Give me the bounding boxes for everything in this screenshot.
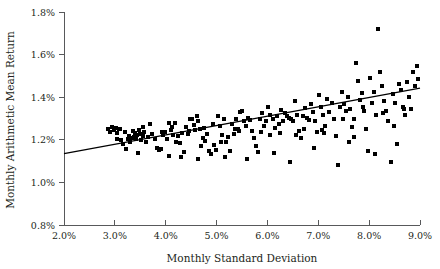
- data-point: [115, 137, 119, 141]
- data-point: [212, 143, 216, 147]
- data-point: [350, 125, 354, 129]
- data-point: [336, 163, 340, 167]
- data-point: [179, 155, 183, 159]
- data-point: [332, 117, 336, 121]
- data-point: [381, 111, 385, 115]
- data-point: [234, 117, 238, 121]
- data-point: [313, 119, 317, 123]
- data-point: [192, 123, 196, 127]
- data-point: [176, 134, 180, 138]
- data-point: [415, 64, 419, 68]
- data-point: [141, 134, 145, 138]
- data-point: [295, 113, 299, 117]
- tick-marks: [59, 12, 420, 225]
- data-point: [173, 121, 177, 125]
- data-point: [174, 140, 178, 144]
- data-point: [281, 119, 285, 123]
- data-point: [373, 152, 377, 156]
- data-point: [368, 76, 372, 80]
- data-point: [370, 101, 374, 105]
- y-tick-label: 1.6%: [31, 49, 55, 60]
- data-point: [216, 114, 220, 118]
- data-point: [340, 90, 344, 94]
- data-point: [159, 147, 163, 151]
- data-point: [297, 129, 301, 133]
- data-point: [325, 97, 329, 101]
- x-axis-title: Monthly Standard Deviation: [167, 252, 318, 264]
- data-point: [254, 144, 258, 148]
- data-point: [209, 152, 213, 156]
- data-point: [135, 133, 139, 137]
- data-point: [395, 142, 399, 146]
- data-point: [214, 148, 218, 152]
- data-point: [294, 133, 298, 137]
- data-point: [277, 122, 281, 126]
- data-point: [346, 95, 350, 99]
- data-point: [403, 113, 407, 117]
- data-point: [409, 107, 413, 111]
- scatter-chart: 2.0%3.0%4.0%5.0%6.0%7.0%8.0%9.0% 0.8%1.0…: [0, 0, 440, 269]
- data-point: [397, 82, 401, 86]
- data-point: [196, 119, 200, 123]
- data-point: [190, 117, 194, 121]
- data-point: [196, 157, 200, 161]
- data-point: [374, 113, 378, 117]
- data-points: [106, 27, 421, 167]
- data-point: [382, 99, 386, 103]
- data-point: [240, 109, 244, 113]
- data-point: [137, 128, 141, 132]
- data-point: [264, 119, 268, 123]
- data-point: [205, 132, 209, 136]
- data-point: [315, 130, 319, 134]
- data-point: [361, 105, 365, 109]
- data-point: [220, 133, 224, 137]
- y-tick-label: 1.0%: [31, 177, 55, 188]
- data-point: [299, 136, 303, 140]
- data-point: [165, 137, 169, 141]
- data-point: [237, 129, 241, 133]
- data-point: [117, 127, 121, 131]
- data-point: [250, 129, 254, 133]
- data-point: [322, 131, 326, 135]
- data-point: [148, 122, 152, 126]
- data-point: [245, 157, 249, 161]
- data-point: [411, 70, 415, 74]
- data-point: [182, 150, 186, 154]
- y-tick-label: 1.4%: [31, 92, 55, 103]
- data-point: [119, 138, 123, 142]
- data-point: [244, 124, 248, 128]
- data-point: [338, 105, 342, 109]
- data-point: [393, 101, 397, 105]
- data-point: [199, 144, 203, 148]
- x-axis-tick-labels: 2.0%3.0%4.0%5.0%6.0%7.0%8.0%9.0%: [52, 230, 432, 241]
- data-point: [167, 154, 171, 158]
- regression-trend-line: [64, 88, 420, 154]
- data-point: [356, 79, 360, 83]
- data-point: [279, 108, 283, 112]
- x-tick-label: 7.0%: [306, 230, 330, 241]
- data-point: [272, 151, 276, 155]
- data-point: [301, 114, 305, 118]
- data-point: [256, 150, 260, 154]
- x-tick-label: 6.0%: [255, 230, 279, 241]
- data-point: [392, 124, 396, 128]
- data-point: [167, 121, 171, 125]
- data-point: [262, 124, 266, 128]
- data-point: [407, 95, 411, 99]
- data-point: [341, 117, 345, 121]
- data-point: [144, 140, 148, 144]
- data-point: [178, 141, 182, 145]
- data-point: [268, 133, 272, 137]
- data-point: [142, 130, 146, 134]
- data-point: [233, 127, 237, 131]
- data-point: [260, 111, 264, 115]
- data-point: [224, 140, 228, 144]
- y-tick-label: 1.2%: [31, 134, 55, 145]
- data-point: [352, 135, 356, 139]
- data-point: [219, 140, 223, 144]
- data-point: [378, 70, 382, 74]
- data-point: [288, 160, 292, 164]
- axes: [64, 12, 420, 225]
- data-point: [380, 84, 384, 88]
- data-point: [195, 114, 199, 118]
